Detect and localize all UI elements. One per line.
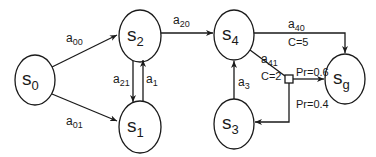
label-s4: s4 [222, 24, 239, 47]
label-a41: a41 [261, 53, 278, 68]
label-s2: s2 [127, 25, 144, 48]
label-pr-s3: Pr=0.4 [296, 99, 329, 110]
label-pr-sg: Pr=0.6 [296, 67, 329, 78]
label-s3: s3 [222, 113, 239, 136]
label-a20: a20 [173, 14, 190, 29]
edge-a00 [52, 35, 117, 67]
edge-pr04 [255, 83, 289, 122]
label-a01: a01 [66, 115, 83, 130]
label-a40: a40 [288, 18, 305, 33]
chance-node [285, 75, 293, 83]
edge-a01 [52, 94, 117, 121]
label-cost-a40: C=5 [288, 37, 309, 48]
label-sg: sg [333, 68, 350, 91]
label-s1: s1 [127, 116, 144, 139]
label-a21: a21 [113, 73, 130, 88]
label-a00: a00 [66, 32, 83, 47]
label-s0: s0 [22, 69, 39, 92]
label-cost-a41: C=2 [261, 71, 282, 82]
label-a1: a1 [146, 73, 158, 88]
label-a3: a3 [238, 76, 250, 91]
